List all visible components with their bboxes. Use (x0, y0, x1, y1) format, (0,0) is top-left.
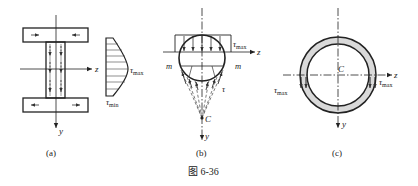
figure-6-36: z y τmax τmin (a) (0, 0, 418, 186)
tau-max-label-left: τmax (274, 85, 287, 96)
m-label-left: m (166, 61, 172, 71)
figure-caption: 图 6-36 (188, 166, 219, 177)
panel-a: z y τmax τmin (a) (20, 15, 143, 158)
axis-label-z: z (256, 47, 261, 57)
m-label-right: m (235, 61, 241, 71)
panel-label-a: (a) (46, 148, 56, 158)
centroid-label: C (205, 114, 212, 124)
tau-max-label-right: τmax (379, 77, 392, 88)
axis-label-z: z (94, 64, 99, 74)
axis-label-y: y (58, 126, 63, 136)
centroid-point (200, 116, 203, 119)
tau-min-label: τmin (106, 97, 118, 108)
i-beam-section (23, 28, 88, 112)
axis-label-z: z (393, 70, 398, 80)
axis-label-y: y (204, 131, 209, 141)
web (46, 42, 65, 98)
shear-flow-arrows (31, 35, 80, 105)
centroid-label: C (338, 64, 345, 74)
tau-label: τ (222, 84, 226, 94)
panel-b: z y C τmax m m τ (b) 图 6-36 (163, 8, 261, 177)
tau-max-label: τmax (233, 39, 246, 50)
axis-label-y: y (341, 119, 346, 129)
panel-label-c: (c) (332, 148, 342, 158)
panel-label-b: (b) (196, 148, 207, 158)
tau-max-label: τmax (130, 65, 143, 76)
shear-stress-distribution (106, 38, 128, 96)
panel-c: C z y τmax τmax (c) (274, 8, 398, 158)
